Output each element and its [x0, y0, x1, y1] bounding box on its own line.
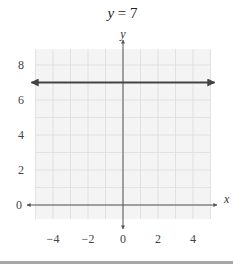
x-tick-label: 0: [120, 232, 126, 246]
x-tick-label: 2: [155, 232, 161, 246]
bottom-divider: [0, 261, 233, 264]
y-tick-label: 4: [18, 128, 24, 142]
y-tick-label: 2: [18, 163, 24, 177]
y-tick-label: 0: [16, 198, 22, 212]
x-tick-label: −2: [82, 232, 95, 246]
x-axis-label: x: [223, 192, 230, 206]
x-tick-label: −4: [47, 232, 60, 246]
y-tick-label: 8: [18, 58, 24, 72]
y-axis-label: y: [119, 27, 126, 41]
coordinate-plane: −4−202402468xy: [0, 0, 233, 265]
y-tick-label: 6: [18, 93, 24, 107]
x-tick-label: 4: [190, 232, 196, 246]
